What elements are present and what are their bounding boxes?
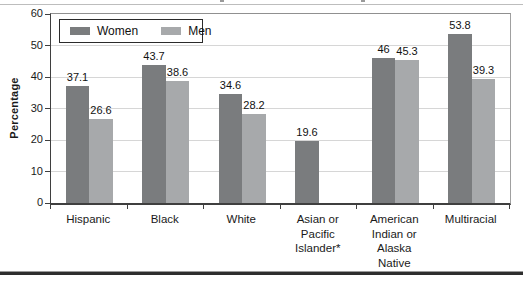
value-label-women-4: 46 — [377, 43, 389, 55]
chart-screenshot: Percentage 37.143.734.619.64653.826.638.… — [0, 0, 523, 283]
bar-men-5 — [472, 79, 496, 203]
bar-men-4 — [395, 60, 419, 203]
bar-men-1 — [166, 81, 190, 203]
cropped-title-remnant — [361, 0, 365, 2]
x-tick-0 — [50, 204, 51, 209]
value-label-men-0: 26.6 — [90, 104, 111, 116]
y-tick-40 — [45, 77, 51, 78]
legend-item-women: Women — [70, 24, 138, 38]
value-label-men-5: 39.3 — [473, 64, 494, 76]
bar-men-0 — [89, 119, 113, 203]
bar-men-2 — [242, 114, 266, 203]
x-tick-3 — [280, 204, 281, 209]
bar-women-0 — [66, 86, 90, 203]
y-tick-50 — [45, 45, 51, 46]
y-tick-label-60: 60 — [13, 7, 43, 19]
legend: Women Men — [59, 19, 203, 43]
y-tick-label-40: 40 — [13, 70, 43, 82]
gridline-50 — [51, 45, 510, 46]
gridline-10 — [51, 171, 510, 172]
bar-women-5 — [448, 34, 472, 203]
gridline-40 — [51, 77, 510, 78]
legend-item-men: Men — [161, 24, 211, 38]
value-label-women-0: 37.1 — [67, 71, 88, 83]
value-label-women-1: 43.7 — [143, 50, 164, 62]
gridline-20 — [51, 140, 510, 141]
x-tick-1 — [127, 204, 128, 209]
y-tick-label-50: 50 — [13, 39, 43, 51]
y-tick-30 — [45, 108, 51, 109]
legend-label-women: Women — [97, 24, 138, 38]
x-category-label-5: Multiracial — [426, 212, 516, 227]
legend-label-men: Men — [188, 24, 211, 38]
x-tick-6 — [509, 204, 510, 209]
gridline-30 — [51, 108, 510, 109]
y-tick-10 — [45, 171, 51, 172]
value-label-men-1: 38.6 — [167, 66, 188, 78]
women-color-swatch — [70, 27, 90, 35]
bottom-rule — [0, 272, 523, 275]
value-label-men-4: 45.3 — [396, 45, 417, 57]
y-tick-label-0: 0 — [13, 196, 43, 208]
x-tick-2 — [203, 204, 204, 209]
cropped-title-remnant — [220, 0, 224, 2]
y-tick-label-30: 30 — [13, 102, 43, 114]
y-tick-20 — [45, 140, 51, 141]
y-tick-60 — [45, 14, 51, 15]
bar-women-1 — [142, 65, 166, 203]
value-label-women-2: 34.6 — [220, 79, 241, 91]
bar-women-3 — [295, 141, 319, 203]
x-tick-5 — [433, 204, 434, 209]
value-label-women-3: 19.6 — [296, 126, 317, 138]
plot-area: 37.143.734.619.64653.826.638.628.245.339… — [50, 13, 511, 205]
top-divider-line — [0, 4, 523, 5]
value-label-men-2: 28.2 — [243, 99, 264, 111]
value-label-women-5: 53.8 — [449, 19, 470, 31]
men-color-swatch — [161, 27, 181, 35]
y-tick-label-10: 10 — [13, 165, 43, 177]
bar-women-4 — [372, 58, 396, 203]
bar-women-2 — [219, 94, 243, 203]
y-tick-label-20: 20 — [13, 133, 43, 145]
x-tick-4 — [356, 204, 357, 209]
